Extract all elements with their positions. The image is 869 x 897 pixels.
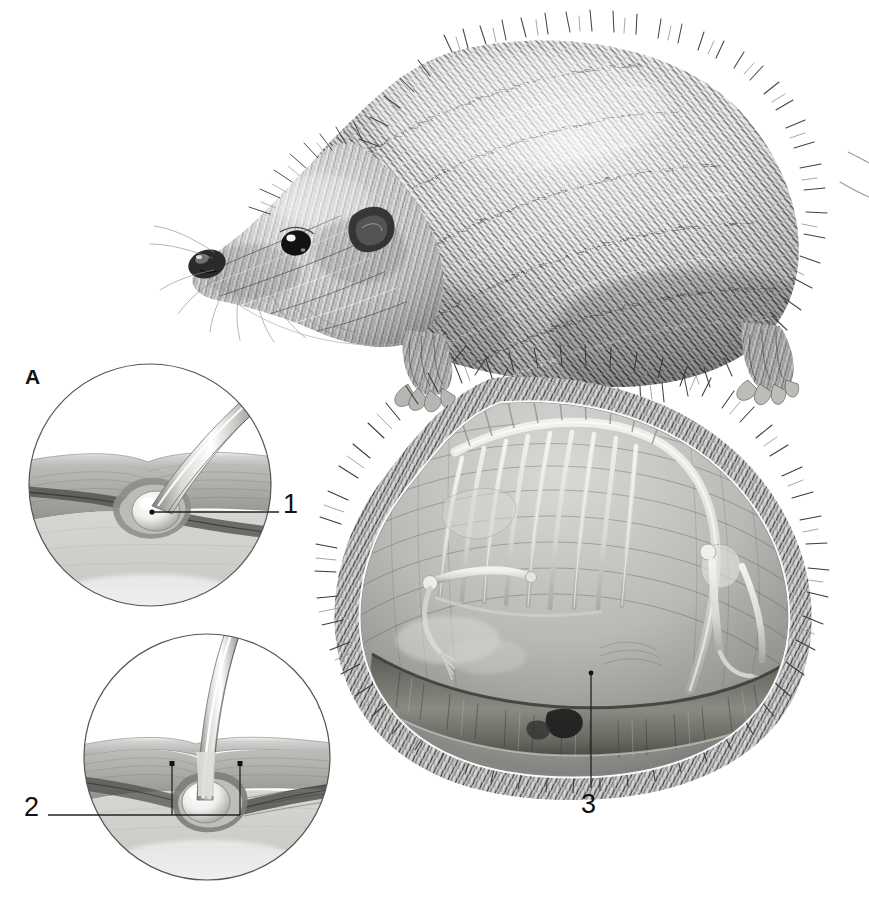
panel-label-a: A: [25, 366, 40, 387]
stray-spines: [840, 152, 869, 197]
inset-skin-erect-spine: [76, 604, 340, 890]
hedgehog-cutaway-rolled: [315, 345, 840, 820]
hedgehog-whole-body: [150, 10, 869, 412]
illustration-plate: A 1 2 3: [0, 0, 869, 897]
callout-label-1: 1: [283, 491, 298, 518]
inset-skin-oblique-spine: [20, 356, 284, 620]
illustration-canvas: [0, 0, 869, 897]
callout-label-3: 3: [581, 791, 596, 818]
hind-leg: [737, 322, 799, 405]
callout-label-2: 2: [24, 794, 39, 821]
